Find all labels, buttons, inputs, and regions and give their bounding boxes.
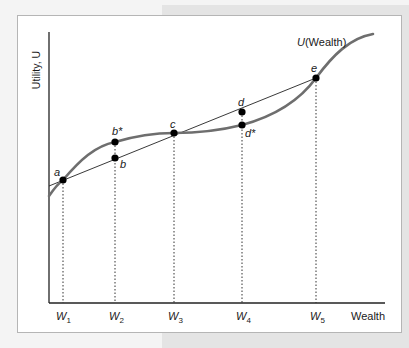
x-tick-w2: W2 <box>109 310 124 325</box>
point-d <box>238 108 245 115</box>
label-b: b <box>120 158 126 170</box>
point-a <box>59 176 66 183</box>
utility-curve <box>49 34 373 196</box>
label-b-star: b* <box>112 125 123 137</box>
point-b-star <box>111 138 118 145</box>
y-axis-label: Utility, U <box>30 51 42 89</box>
x-tick-w3: W3 <box>168 310 183 325</box>
x-tick-w1: W1 <box>56 310 71 325</box>
point-e <box>312 74 319 81</box>
x-tick-w5: W5 <box>310 310 325 325</box>
point-b <box>111 154 118 161</box>
label-d: d <box>238 96 245 108</box>
curve-label: U(Wealth) <box>297 36 346 48</box>
x-axis-label: Wealth <box>351 310 385 322</box>
utility-diagram: a b* b c d d* e U(Wealth) Utility, U W1 … <box>0 0 409 348</box>
label-c: c <box>170 118 176 130</box>
point-c <box>170 129 177 136</box>
x-tick-w4: W4 <box>236 310 251 325</box>
label-a: a <box>54 166 60 178</box>
label-e: e <box>311 62 317 74</box>
label-d-star: d* <box>245 127 256 139</box>
